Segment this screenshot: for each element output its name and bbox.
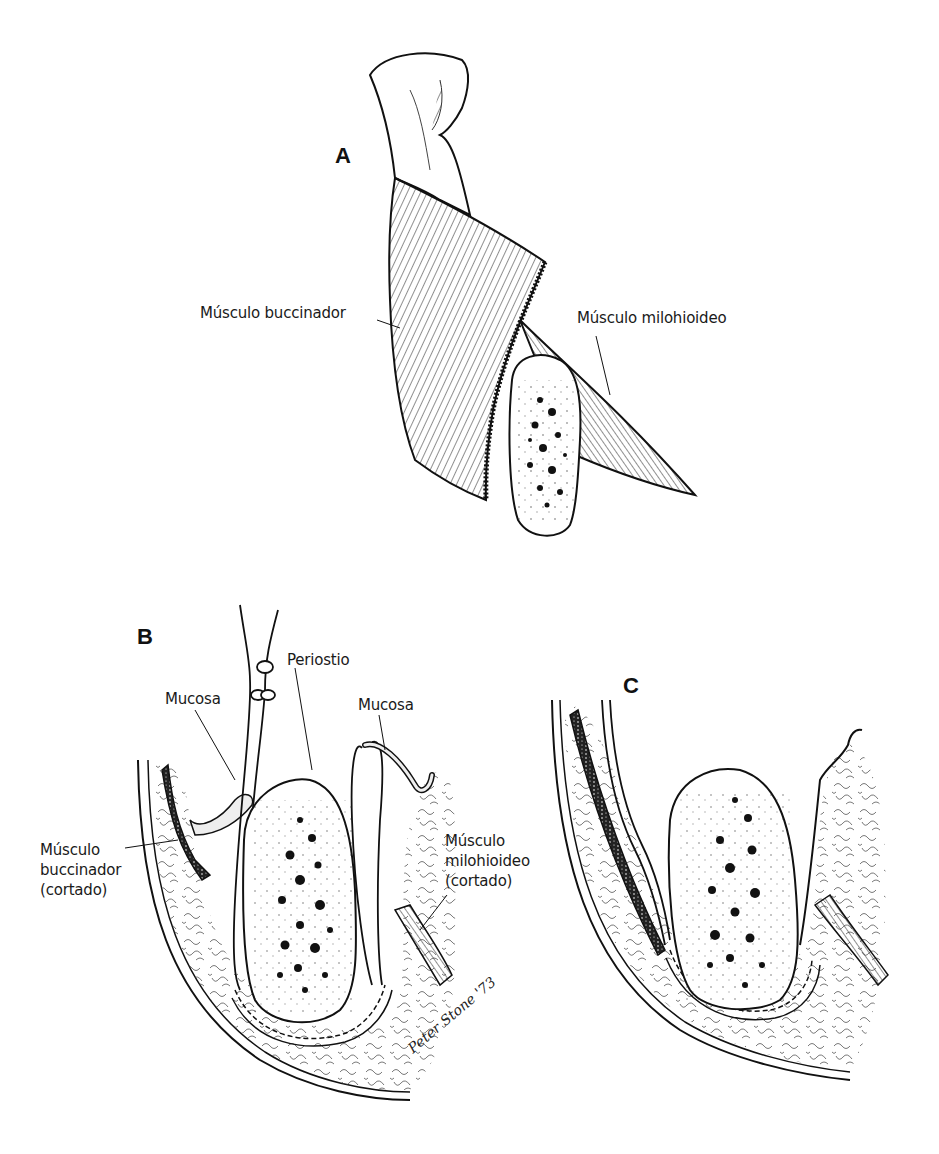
panel-c-drawing (552, 700, 888, 1080)
panel-b-drawing (125, 605, 456, 1100)
panel-label-b: B (137, 624, 153, 650)
panel-label-c: C (623, 673, 639, 699)
label-milohyoid-cut: Músculo milohioideo (cortado) (445, 831, 530, 891)
label-buccinator-cut: Músculo buccinador (cortado) (40, 840, 121, 900)
label-milohyoid-muscle: Músculo milohioideo (577, 308, 726, 328)
label-mucosa-lingual: Mucosa (358, 695, 414, 715)
panel-label-a: A (335, 143, 351, 169)
label-periosteum: Periostio (287, 650, 350, 670)
anatomy-illustration (0, 0, 939, 1154)
label-mucosa-buccal: Mucosa (165, 689, 221, 709)
label-buccinator-muscle: Músculo buccinador (200, 303, 346, 323)
panel-a-drawing (370, 53, 695, 535)
